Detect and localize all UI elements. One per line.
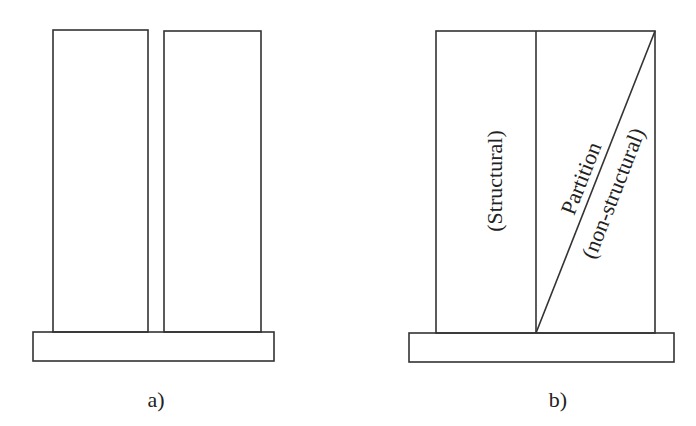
right-wall-a [164, 31, 261, 332]
panel-a: a) [33, 30, 274, 412]
structural-label: (Structural) [482, 130, 507, 231]
panel-b: (Structural) Partition (non-structural) … [409, 31, 674, 412]
diagonal-line-b [536, 31, 655, 333]
caption-b: b) [549, 387, 567, 412]
left-wall-a [53, 30, 148, 332]
wall-diagram: a) (Structural) Partition (non-structura… [0, 0, 696, 426]
base-slab-a [33, 332, 274, 361]
caption-a: a) [147, 387, 164, 412]
base-slab-b [409, 333, 674, 362]
